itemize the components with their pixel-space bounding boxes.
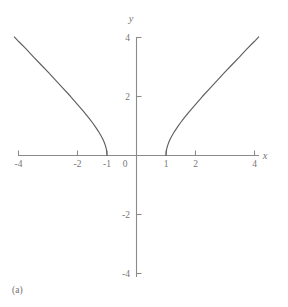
figure-caption: (a) <box>12 285 23 296</box>
x-tick-label-0: 0 <box>123 159 128 169</box>
x-axis-label: x <box>262 150 268 161</box>
y-tick-label-4: 4 <box>125 33 130 43</box>
curve-right-branch <box>166 37 259 156</box>
plot-svg: -4 -2 -1 0 1 2 4 4 2 -2 -4 x y (a) <box>0 0 288 307</box>
y-tick-label--2: -2 <box>122 210 130 220</box>
x-tick-label--4: -4 <box>15 159 23 169</box>
x-tick-labels: -4 -2 -1 0 1 2 4 <box>15 159 258 169</box>
x-tick-label-2: 2 <box>193 159 198 169</box>
y-tick-label-2: 2 <box>125 92 130 102</box>
y-tick-label--4: -4 <box>122 269 130 279</box>
x-tick-label--1: -1 <box>103 159 111 169</box>
curve-left-branch <box>14 37 107 156</box>
x-tick-label--2: -2 <box>74 159 82 169</box>
x-tick-label-1: 1 <box>164 159 169 169</box>
x-tick-label-4: 4 <box>252 159 257 169</box>
y-axis-label: y <box>128 13 134 24</box>
figure-container: -4 -2 -1 0 1 2 4 4 2 -2 -4 x y (a) <box>0 0 288 307</box>
